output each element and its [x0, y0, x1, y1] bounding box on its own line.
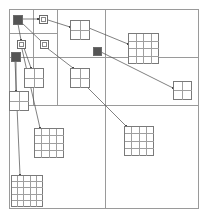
open-node-b-inner	[20, 43, 24, 47]
link-open-a-to-grid-top	[48, 20, 70, 27]
link-root-to-open-b	[18, 24, 21, 40]
grid-block-bottom-left-outline	[12, 176, 43, 207]
solid-node-root	[13, 15, 22, 24]
grid-block-bottom-left	[12, 176, 43, 207]
quadtree-diagram: Quadtree spatial partition with linked g…	[0, 0, 207, 217]
open-node-c-inner	[43, 43, 47, 47]
grid-block-top-right	[129, 34, 159, 64]
diagram-canvas	[0, 0, 207, 217]
solid-node-mid	[94, 48, 102, 56]
link-open-b-to-lower-left	[22, 49, 40, 128]
link-solid-left-to-bottom-left	[15, 61, 20, 175]
link-root-to-open-a-arrowhead	[37, 18, 39, 20]
grid-block-lower-right	[125, 127, 154, 156]
partition-quad-bottom-right	[106, 106, 199, 209]
link-root-to-open-c	[22, 23, 41, 41]
grid-block-mid-left	[25, 69, 44, 88]
grid-block-lower-left	[35, 129, 64, 158]
open-node-a-inner	[42, 18, 46, 22]
grid-block-top-mid	[71, 21, 90, 40]
grid-block-mid-center	[71, 69, 90, 88]
grid-block-left-edge	[10, 92, 29, 111]
solid-node-left	[11, 52, 20, 61]
grid-block-far-right	[174, 82, 192, 100]
link-grid-top-to-top-right	[89, 28, 128, 44]
